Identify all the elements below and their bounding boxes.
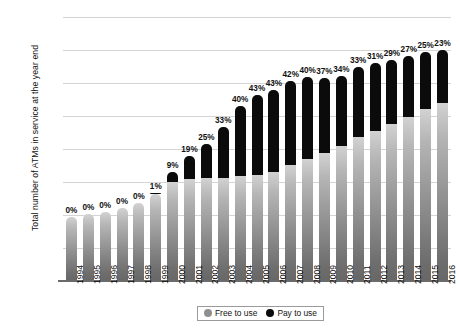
bar-segment-pay-to-use	[319, 78, 330, 153]
bar-segment-pay-to-use	[420, 52, 431, 109]
bar-column[interactable]: 37%	[319, 17, 330, 281]
bar-segment-pay-to-use	[218, 127, 229, 178]
x-axis-tick-label: 2007	[295, 244, 305, 284]
x-axis-tick-label: 2016	[447, 244, 457, 284]
x-axis-tick-label: 2005	[261, 244, 271, 284]
bar-data-label: 23%	[426, 39, 460, 48]
bar-segment-pay-to-use	[302, 77, 313, 159]
bar-segment-pay-to-use	[285, 81, 296, 165]
bar-column[interactable]: 0%	[117, 17, 128, 281]
x-axis-tick-label: 2015	[430, 244, 440, 284]
bar-column[interactable]: 25%	[420, 17, 431, 281]
x-axis-tick-label: 2003	[227, 244, 237, 284]
bar-segment-pay-to-use	[403, 56, 414, 117]
bar-column[interactable]: 23%	[437, 17, 448, 281]
pay-to-use-swatch	[266, 309, 274, 317]
bar-column[interactable]: 43%	[268, 17, 279, 281]
bar-segment-pay-to-use	[268, 90, 279, 172]
bar-column[interactable]: 19%	[184, 17, 195, 281]
free-to-use-swatch	[204, 309, 212, 317]
bar-segment-pay-to-use	[184, 156, 195, 180]
x-axis-tick-label: 2008	[312, 244, 322, 284]
bar-segment-pay-to-use	[336, 76, 347, 146]
bar-segment-pay-to-use	[437, 50, 448, 103]
x-axis-tick-label: 2014	[413, 244, 423, 284]
bar-column[interactable]: 29%	[386, 17, 397, 281]
x-axis-tick-label: 2011	[362, 244, 372, 284]
bar-segment-pay-to-use	[386, 60, 397, 124]
bar-column[interactable]: 0%	[83, 17, 94, 281]
bar-segment-pay-to-use	[252, 95, 263, 175]
x-axis-tick-label: 1995	[92, 244, 102, 284]
x-axis-tick-label: 2001	[194, 244, 204, 284]
chart-legend: Free to use Pay to use	[197, 306, 324, 321]
bar-column[interactable]: 27%	[403, 17, 414, 281]
bar-segment-pay-to-use	[235, 106, 246, 176]
y-axis-title: Total number of ATMs in service at the y…	[30, 13, 40, 263]
x-axis-tick-label: 1998	[143, 244, 153, 284]
x-axis-tick-label: 2006	[278, 244, 288, 284]
bar-segment-pay-to-use	[201, 144, 212, 178]
x-axis-tick-label: 2012	[379, 244, 389, 284]
bar-column[interactable]: 40%	[302, 17, 313, 281]
bars-group: 0%0%0%0%0%1%9%19%25%33%40%43%43%42%40%37…	[63, 17, 451, 281]
bar-column[interactable]: 42%	[285, 17, 296, 281]
bar-column[interactable]: 0%	[66, 17, 77, 281]
legend-label-pay-to-use: Pay to use	[277, 308, 317, 318]
x-axis-tick-label: 2002	[210, 244, 220, 284]
bar-segment-pay-to-use	[353, 67, 364, 138]
bar-segment-pay-to-use	[167, 172, 178, 182]
bar-column[interactable]: 0%	[133, 17, 144, 281]
legend-item-pay-to-use[interactable]: Pay to use	[266, 308, 317, 318]
bar-segment-pay-to-use	[370, 63, 381, 130]
bar-segment-pay-to-use	[150, 193, 161, 194]
bar-column[interactable]: 43%	[252, 17, 263, 281]
bar-column[interactable]: 40%	[235, 17, 246, 281]
bar-column[interactable]: 33%	[218, 17, 229, 281]
bar-column[interactable]: 1%	[150, 17, 161, 281]
bar-column[interactable]: 25%	[201, 17, 212, 281]
x-axis-tick-label: 1997	[126, 244, 136, 284]
x-axis-tick-label: 2009	[328, 244, 338, 284]
legend-label-free-to-use: Free to use	[215, 308, 257, 318]
legend-item-free-to-use[interactable]: Free to use	[204, 308, 257, 318]
x-axis-tick-label: 1999	[160, 244, 170, 284]
x-axis-tick-label: 2000	[177, 244, 187, 284]
x-axis-tick-label: 1996	[109, 244, 119, 284]
x-axis-tick-label: 2010	[345, 244, 355, 284]
plot-area: 0100002000030000400005000060000700008000…	[63, 17, 451, 281]
bar-column[interactable]: 0%	[100, 17, 111, 281]
x-axis-tick-label: 2004	[244, 244, 254, 284]
x-axis-tick-label: 1994	[75, 244, 85, 284]
x-axis-tick-label: 2013	[396, 244, 406, 284]
